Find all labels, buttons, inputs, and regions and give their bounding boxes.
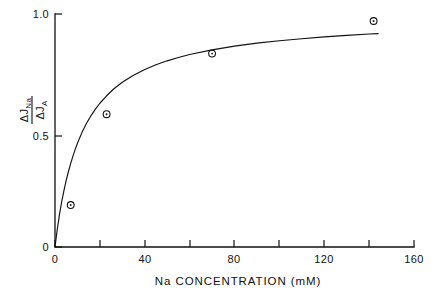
y-tick-label-1: 1.0: [33, 8, 49, 20]
x-tick-label-40: 40: [139, 253, 152, 265]
x-tick-label-120: 120: [314, 253, 333, 265]
y-axis-title-denominator-main: ΔJ: [34, 106, 46, 119]
data-point-center: [211, 53, 213, 55]
y-axis-title-numerator-main: ΔJ: [18, 109, 30, 122]
x-tick-label-80: 80: [228, 253, 241, 265]
data-point-center: [70, 204, 72, 206]
x-tick-label-160: 160: [404, 253, 423, 265]
chart-figure: 1.0 0.5 0 0 40 80 120 160 Na CONCENTRATI…: [0, 0, 434, 293]
y-tick-label-0p5: 0.5: [33, 130, 49, 142]
data-point-center: [373, 20, 375, 22]
y-axis-title-denominator-subscript: A: [40, 100, 49, 106]
na-concentration-saturation-chart: 1.0 0.5 0 0 40 80 120 160 Na CONCENTRATI…: [0, 0, 434, 293]
chart-background: [0, 0, 434, 293]
data-point-center: [106, 113, 108, 115]
x-tick-label-0: 0: [52, 253, 58, 265]
x-axis-title: Na CONCENTRATION (mM): [155, 275, 321, 287]
y-tick-label-0: 0: [43, 241, 49, 253]
